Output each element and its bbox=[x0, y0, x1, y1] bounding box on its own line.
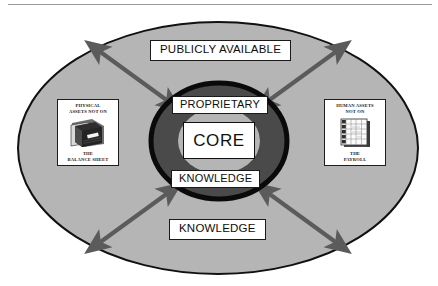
banner-knowledge: KNOWLEDGE bbox=[169, 219, 266, 240]
spreadsheet-grid-icon bbox=[335, 116, 375, 150]
asset-card-human-caption-top: HUMAN ASSETS NOT ON bbox=[336, 103, 374, 115]
label-proprietary: PROPRIETARY bbox=[172, 96, 268, 114]
diagram-canvas: PUBLICLY AVAILABLE KNOWLEDGE PROPRIETARY… bbox=[0, 0, 438, 286]
ledger-book-icon bbox=[68, 116, 108, 150]
asset-card-human: HUMAN ASSETS NOT ON bbox=[324, 99, 386, 166]
asset-card-physical-caption-bottom: THE BALANCE SHEET bbox=[68, 151, 109, 163]
asset-card-physical-caption-top: PHYSICAL ASSETS NOT ON bbox=[69, 103, 107, 115]
asset-card-human-caption-bottom: THE PAYROLL bbox=[344, 151, 367, 163]
core-box: CORE bbox=[183, 122, 255, 159]
asset-card-physical: PHYSICAL ASSETS NOT ON THE BALANCE SH bbox=[57, 99, 119, 166]
banner-publicly-available: PUBLICLY AVAILABLE bbox=[150, 40, 291, 61]
core-label: CORE bbox=[193, 132, 245, 149]
label-core-knowledge: KNOWLEDGE bbox=[171, 170, 260, 188]
